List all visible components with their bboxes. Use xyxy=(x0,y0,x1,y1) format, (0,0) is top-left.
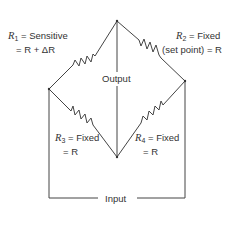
node-top xyxy=(116,20,118,22)
node-right xyxy=(184,80,186,82)
r4-line1: = Fixed xyxy=(148,132,179,143)
r4-line2: = R xyxy=(135,146,158,157)
r3-line1: = Fixed xyxy=(68,132,99,143)
r1-line1: = Sensitive xyxy=(21,30,68,41)
r3-line2: = R xyxy=(55,146,78,157)
r4-label: R4 = Fixed = R xyxy=(135,132,179,157)
output-label: Output xyxy=(102,73,131,84)
input-label: Input xyxy=(105,193,126,204)
r3-sub: 3 xyxy=(61,137,65,144)
r1-label: R1 = Sensitive = R + ΔR xyxy=(8,30,68,55)
r2-sub: 2 xyxy=(182,35,186,42)
r2-label: R2 = Fixed (set point) = R xyxy=(162,30,222,55)
input-text: Input xyxy=(105,193,126,204)
r2-line1: = Fixed xyxy=(189,30,220,41)
node-bottom xyxy=(116,156,118,158)
node-left xyxy=(48,88,50,90)
r1-line2: = R + ΔR xyxy=(8,44,55,55)
r2-line2: (set point) = R xyxy=(162,44,222,55)
output-text: Output xyxy=(102,73,131,84)
r4-sub: 4 xyxy=(141,137,145,144)
r1-sub: 1 xyxy=(14,35,18,42)
r3-label: R3 = Fixed = R xyxy=(55,132,99,157)
